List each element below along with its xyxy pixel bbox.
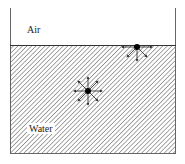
bulk-molecule (74, 77, 102, 105)
water-label: Water (27, 123, 55, 134)
water-region (10, 45, 175, 153)
air-label: Air (25, 24, 42, 35)
molecule-dot-icon (85, 88, 91, 94)
molecule-dot-icon (134, 44, 140, 50)
